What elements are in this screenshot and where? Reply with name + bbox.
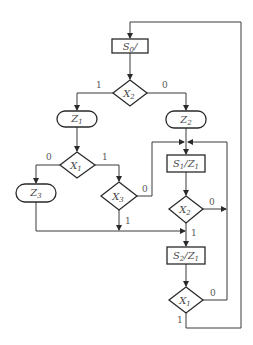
conditional-output-z2: Z2 xyxy=(166,111,206,128)
branch-label-true: 1 xyxy=(191,228,197,238)
x1-false-branch xyxy=(36,165,60,183)
branch-label-false: 0 xyxy=(210,288,216,298)
x2-false-branch xyxy=(147,93,186,110)
state-box-s2: S2/Z1 xyxy=(167,247,205,264)
x1-true-branch xyxy=(95,165,119,181)
state-box-s0: S0/ xyxy=(112,39,148,54)
decision-sub: 1 xyxy=(186,300,190,308)
decision-sub: 1 xyxy=(77,165,81,173)
output-sub: 2 xyxy=(186,119,192,127)
output-sub: 3 xyxy=(37,192,42,200)
branch-label-true: 1 xyxy=(102,152,108,162)
output-sub: 1 xyxy=(78,118,82,126)
decision-x3: X3 1 0 xyxy=(101,182,148,226)
branch-label-false: 0 xyxy=(46,152,52,162)
state-output-sub: 1 xyxy=(195,255,199,263)
conditional-output-z1: Z1 xyxy=(57,111,97,127)
branch-label-true: 1 xyxy=(177,315,183,325)
branch-label-false: 0 xyxy=(162,80,168,90)
decision-sub: 3 xyxy=(119,196,124,204)
x2-true-branch xyxy=(77,93,113,110)
conditional-output-z3: Z3 xyxy=(16,184,56,202)
state-box-s1: S1/Z1 xyxy=(167,155,205,172)
decision-x2-mid: X2 1 0 xyxy=(169,196,215,238)
state-output-sub: 1 xyxy=(195,163,199,171)
branch-label-false: 0 xyxy=(209,197,215,207)
branch-label-true: 1 xyxy=(125,216,131,226)
branch-label-true: 1 xyxy=(96,80,102,90)
branch-label-false: 0 xyxy=(142,184,148,194)
decision-x1-bottom: X1 1 0 xyxy=(169,287,216,325)
decision-sub: 2 xyxy=(185,209,191,217)
z3-to-s2 xyxy=(36,202,185,231)
decision-sub: 2 xyxy=(129,93,135,101)
asm-chart: S0/ S1/Z1 S2/Z1 Z1 Z2 Z3 X2 1 0 X1 1 0 X… xyxy=(0,0,253,345)
